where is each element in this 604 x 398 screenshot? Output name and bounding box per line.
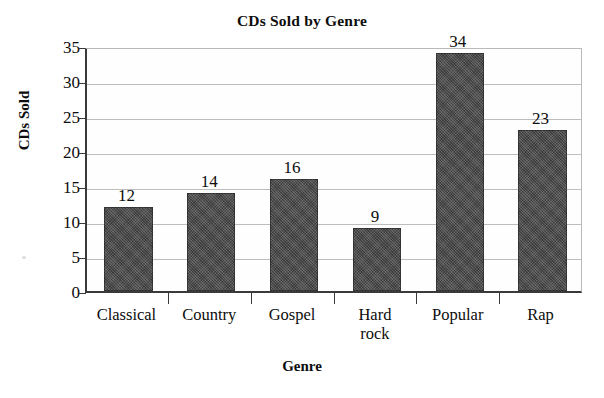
bar	[518, 130, 566, 291]
bar-value-label: 12	[85, 186, 168, 206]
x-axis-category-label: Gospel	[251, 305, 334, 324]
chart-title: CDs Sold by Genre	[0, 12, 604, 30]
bar-value-label: 23	[499, 109, 582, 129]
x-axis-label-line: Gospel	[251, 305, 334, 324]
x-axis-title: Genre	[0, 358, 604, 375]
x-axis-label-line: Country	[168, 305, 251, 324]
y-axis-tick-label: 35	[10, 38, 80, 58]
x-axis-category-label: Popular	[416, 305, 499, 324]
x-axis-label-line: Popular	[416, 305, 499, 324]
bar-value-label: 9	[334, 207, 417, 227]
y-axis-tick-label: 10	[10, 213, 80, 233]
bar-chart: CDs Sold by Genre CDs Sold Genre 0510152…	[0, 0, 604, 398]
bar	[104, 207, 152, 291]
x-axis-label-line: rock	[334, 324, 417, 343]
x-axis-separator	[251, 293, 252, 304]
bar	[436, 53, 484, 291]
y-axis-tick-label: 5	[10, 248, 80, 268]
x-axis-category-label: Rap	[499, 305, 582, 324]
bar-value-label: 14	[168, 172, 251, 192]
bar-value-label: 16	[251, 158, 334, 178]
bar-value-label: 34	[416, 32, 499, 52]
plot-area	[85, 48, 582, 293]
y-axis-tick-label: 30	[10, 73, 80, 93]
gridline	[87, 84, 581, 85]
bar	[270, 179, 318, 291]
gridline	[87, 259, 581, 260]
x-axis-category-label: Hardrock	[334, 305, 417, 343]
x-axis-separator	[499, 293, 500, 304]
gridline	[87, 154, 581, 155]
y-axis-tick-label: 20	[10, 143, 80, 163]
x-axis-separator	[168, 293, 169, 304]
bar	[187, 193, 235, 291]
x-axis-category-label: Classical	[85, 305, 168, 324]
x-axis-separator	[334, 293, 335, 304]
x-axis-label-line: Classical	[85, 305, 168, 324]
x-axis-category-label: Country	[168, 305, 251, 324]
x-axis-label-line: Hard	[334, 305, 417, 324]
y-axis-tick-label: 15	[10, 178, 80, 198]
y-axis-tick-label: 25	[10, 108, 80, 128]
bar	[353, 228, 401, 291]
y-axis-tick-mark	[79, 293, 86, 294]
x-axis-label-line: Rap	[499, 305, 582, 324]
y-axis-tick-label: 0	[10, 283, 80, 303]
x-axis-separator	[416, 293, 417, 304]
